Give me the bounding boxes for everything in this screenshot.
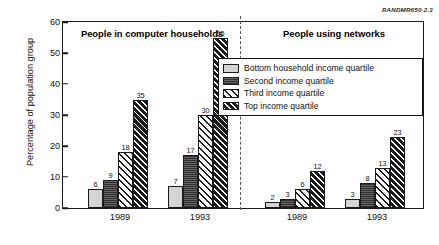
bar-q2: 9	[103, 180, 118, 208]
bar-q3: 18	[118, 152, 133, 208]
bar-q4: 12	[310, 171, 325, 208]
x-tick-label-0: 1989	[80, 212, 160, 222]
bar-q1: 7	[168, 186, 183, 208]
legend-item-q4: Top income quartile	[223, 100, 417, 113]
legend-swatch-q1-icon	[223, 64, 239, 73]
legend-label: Second income quartile	[244, 76, 334, 86]
legend-item-q1: Bottom household income quartile	[223, 62, 417, 75]
legend-label: Bottom household income quartile	[244, 63, 374, 73]
bar-q1: 2	[265, 202, 280, 208]
x-tick-label-1: 1993	[160, 212, 240, 222]
bar-value: 3	[285, 190, 289, 199]
y-axis-title: Percentage of population group	[25, 2, 35, 202]
bar-q2: 3	[280, 199, 295, 208]
bar-value: 6	[300, 180, 304, 189]
bar-group-0: 6 9 18 35	[88, 22, 154, 208]
legend-item-q2: Second income quartile	[223, 75, 417, 88]
bar-q1: 6	[88, 189, 103, 208]
chart-figure: RANDMR650-2.3 Percentage of population g…	[0, 0, 439, 245]
bar-q4: 35	[133, 100, 148, 208]
bar-value: 12	[313, 162, 321, 171]
legend-item-q3: Third income quartile	[223, 87, 417, 100]
legend-label: Top income quartile	[244, 101, 319, 111]
y-tick-40: 40	[50, 79, 60, 89]
bar-q4: 23	[390, 137, 405, 208]
bar-value: 55	[216, 29, 224, 38]
legend-label: Third income quartile	[244, 88, 324, 98]
chart-legend: Bottom household income quartile Second …	[218, 58, 423, 116]
bar-value: 3	[350, 190, 354, 199]
y-tick-10: 10	[50, 172, 60, 182]
bar-q3: 30	[198, 115, 213, 208]
legend-swatch-q2-icon	[223, 77, 239, 86]
bar-value: 18	[121, 143, 129, 152]
x-tick-label-2: 1989	[257, 212, 337, 222]
y-tick-20: 20	[50, 141, 60, 151]
bar-value: 23	[393, 128, 401, 137]
bar-value: 6	[93, 180, 97, 189]
bar-q2: 17	[183, 155, 198, 208]
bar-q3: 6	[295, 189, 310, 208]
legend-swatch-q3-icon	[223, 89, 239, 98]
bar-value: 35	[136, 91, 144, 100]
bar-value: 7	[173, 177, 177, 186]
bar-q1: 3	[345, 199, 360, 208]
y-tick-30: 30	[50, 110, 60, 120]
y-tick-50: 50	[50, 48, 60, 58]
bar-value: 17	[186, 146, 194, 155]
bar-value: 9	[108, 171, 112, 180]
x-tick-label-3: 1993	[337, 212, 417, 222]
bar-value: 13	[378, 159, 386, 168]
bar-value: 8	[365, 174, 369, 183]
bar-value: 2	[270, 193, 274, 202]
bar-q3: 13	[375, 168, 390, 208]
source-code-label: RANDMR650-2.3	[382, 6, 433, 13]
y-tick-0: 0	[55, 203, 60, 213]
legend-swatch-q4-icon	[223, 102, 239, 111]
y-tick-60: 60	[50, 17, 60, 27]
bar-value: 30	[201, 106, 209, 115]
bar-q2: 8	[360, 183, 375, 208]
